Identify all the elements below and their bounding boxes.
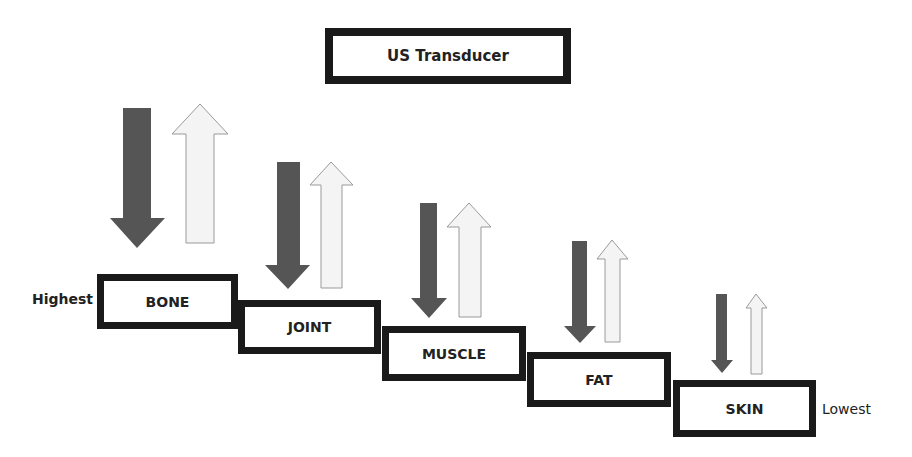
highest-label: Highest bbox=[32, 291, 93, 307]
up-arrow-icon bbox=[172, 104, 228, 243]
tissue-box-skin: SKIN bbox=[673, 380, 816, 437]
down-arrow-icon bbox=[711, 294, 733, 373]
tissue-box-muscle: MUSCLE bbox=[382, 326, 526, 381]
tissue-label: BONE bbox=[146, 294, 190, 310]
up-arrow-icon bbox=[310, 162, 353, 288]
up-arrow-icon bbox=[447, 203, 491, 317]
tissue-box-fat: FAT bbox=[527, 352, 671, 407]
tissue-label: SKIN bbox=[726, 401, 764, 417]
up-arrow-icon bbox=[597, 240, 628, 342]
down-arrow-icon bbox=[110, 108, 165, 248]
tissue-box-joint: JOINT bbox=[238, 300, 381, 354]
up-arrow-icon bbox=[746, 294, 767, 374]
tissue-label: JOINT bbox=[288, 319, 332, 335]
down-arrow-icon bbox=[411, 203, 447, 318]
down-arrow-icon bbox=[564, 241, 596, 343]
down-arrow-icon bbox=[265, 162, 310, 289]
lowest-label: Lowest bbox=[822, 401, 871, 417]
tissue-label: FAT bbox=[585, 372, 612, 388]
tissue-box-bone: BONE bbox=[97, 274, 238, 329]
tissue-label: MUSCLE bbox=[422, 346, 486, 362]
